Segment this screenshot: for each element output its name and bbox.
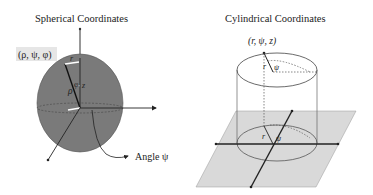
cylindrical-panel: Cylindrical Coordinates (r, ψ, z) r ψ r …: [196, 13, 356, 188]
rho-label: ρ: [67, 86, 73, 96]
coordinate-systems-diagram: Spherical Coordinates r φ z ρ Angle ψ: [0, 0, 373, 195]
base-plane: [196, 111, 356, 187]
phi-label: φ: [74, 80, 79, 89]
cylindrical-point-label: (r, ψ, z): [248, 36, 276, 47]
spherical-panel: Spherical Coordinates r φ z ρ Angle ψ: [16, 13, 169, 162]
top-psi-label: ψ: [274, 63, 280, 72]
spherical-title: Spherical Coordinates: [35, 13, 128, 24]
cylindrical-title: Cylindrical Coordinates: [225, 13, 326, 24]
top-r-label: r: [263, 62, 267, 71]
angle-psi-label: Angle ψ: [135, 151, 169, 162]
spherical-point-label: (ρ, ψ, φ): [18, 49, 52, 61]
